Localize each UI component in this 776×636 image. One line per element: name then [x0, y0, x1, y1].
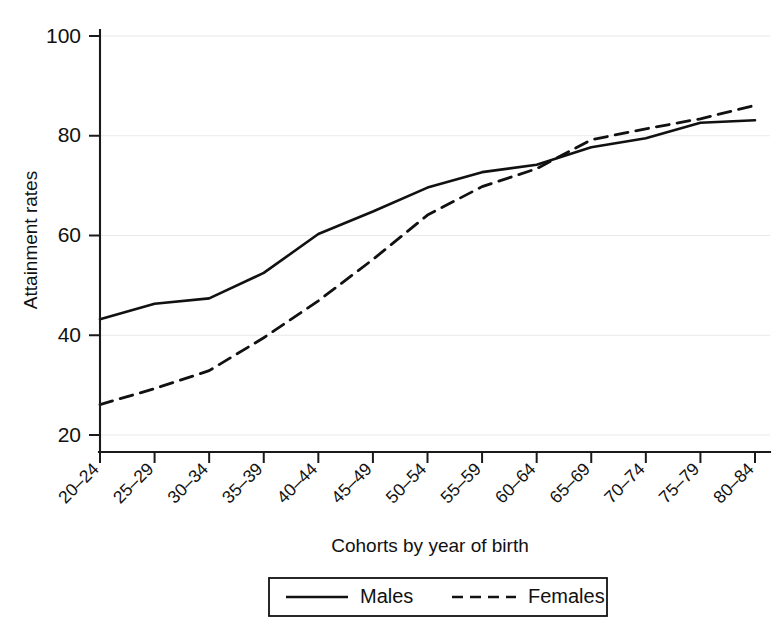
y-tick-label: 20	[58, 423, 81, 446]
legend: Males Females	[269, 578, 607, 616]
legend-label-females: Females	[528, 585, 605, 607]
y-tick-label: 100	[46, 24, 81, 47]
y-tick-label: 60	[58, 223, 81, 246]
chart-figure: 20406080100 20–2425–2930–3435–3940–4445–…	[0, 0, 776, 636]
legend-label-males: Males	[360, 585, 413, 607]
y-tick-label: 40	[58, 323, 81, 346]
x-axis-title: Cohorts by year of birth	[331, 535, 528, 556]
y-axis-title: Attainment rates	[20, 171, 41, 309]
attainment-rates-line-chart: 20406080100 20–2425–2930–3435–3940–4445–…	[0, 0, 776, 636]
y-tick-label: 80	[58, 123, 81, 146]
